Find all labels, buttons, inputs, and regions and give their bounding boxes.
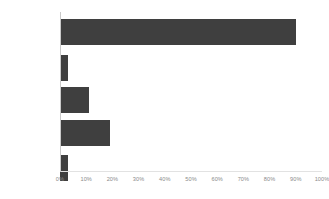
bar-row: Research bbox=[60, 16, 322, 48]
x-tick-label: 90% bbox=[290, 176, 302, 182]
bar bbox=[60, 19, 296, 45]
bar bbox=[60, 55, 68, 81]
x-tick-label: 70% bbox=[238, 176, 250, 182]
x-tick-label: 20% bbox=[107, 176, 119, 182]
bar bbox=[60, 87, 89, 113]
x-tick-label: 80% bbox=[264, 176, 276, 182]
x-axis-line bbox=[60, 171, 322, 172]
plot-area: ResearchSurveyDiagnosticDevelopmentOther… bbox=[60, 12, 322, 172]
x-tick-label: 10% bbox=[80, 176, 92, 182]
x-tick-label: 60% bbox=[211, 176, 223, 182]
y-axis-line bbox=[60, 12, 61, 172]
x-tick-label: 40% bbox=[159, 176, 171, 182]
bar bbox=[60, 120, 110, 146]
bar-row: Development bbox=[60, 117, 322, 149]
bar-row: Diagnostic bbox=[60, 84, 322, 116]
x-tick-label: 50% bbox=[185, 176, 197, 182]
x-tick-label: 0% bbox=[56, 176, 64, 182]
x-tick-label: 30% bbox=[133, 176, 145, 182]
bar-row: Survey bbox=[60, 52, 322, 84]
x-tick-label: 100% bbox=[315, 176, 329, 182]
